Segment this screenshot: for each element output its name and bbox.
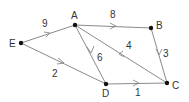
node-a bbox=[73, 23, 77, 27]
edge-c-a bbox=[75, 25, 167, 83]
weight-e-a: 9 bbox=[42, 18, 48, 29]
node-label-b: B bbox=[156, 20, 163, 31]
weight-e-d: 2 bbox=[52, 68, 58, 79]
weight-b-c: 3 bbox=[163, 48, 169, 59]
node-d bbox=[104, 82, 108, 86]
arrow-b-c-icon bbox=[156, 49, 162, 55]
edge-e-a bbox=[21, 25, 75, 43]
graph-diagram: A B C D E 9 8 2 6 4 3 1 bbox=[0, 0, 189, 102]
arrow-d-c-icon bbox=[133, 80, 139, 86]
node-b bbox=[149, 26, 153, 30]
weight-a-d: 6 bbox=[97, 52, 103, 63]
weight-a-b: 8 bbox=[110, 9, 116, 20]
node-e bbox=[19, 41, 23, 45]
node-label-d: D bbox=[102, 88, 109, 99]
weight-d-c: 1 bbox=[135, 87, 141, 98]
weight-c-a: 4 bbox=[126, 40, 132, 51]
node-label-c: C bbox=[172, 80, 179, 91]
node-label-a: A bbox=[71, 10, 78, 21]
node-c bbox=[165, 81, 169, 85]
node-label-e: E bbox=[9, 38, 16, 49]
